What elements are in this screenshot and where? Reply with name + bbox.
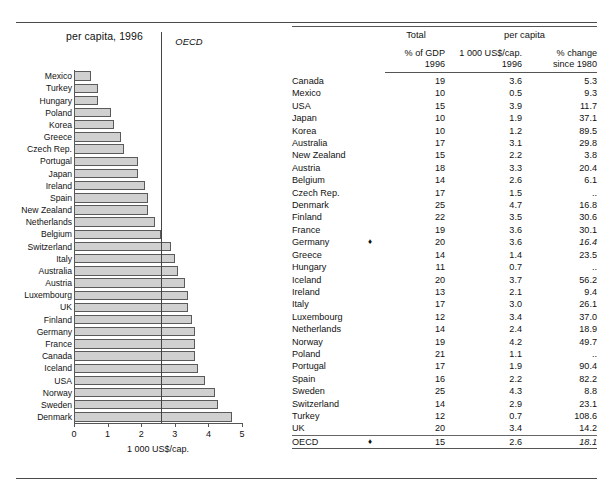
cell-gdp-percent: 12 bbox=[385, 311, 445, 323]
cell-percent-change: 16.8 bbox=[528, 199, 597, 211]
x-axis-tick-label: 3 bbox=[165, 429, 185, 439]
chart-category-label: Portugal bbox=[40, 155, 72, 167]
table-row[interactable]: Turkey120.7108.6 bbox=[292, 410, 597, 422]
table-row[interactable]: Greece141.423.5 bbox=[292, 249, 597, 261]
chart-category-label: Sweden bbox=[41, 399, 72, 411]
table-row[interactable]: France193.630.1 bbox=[292, 224, 597, 236]
table-row[interactable]: Mexico100.59.3 bbox=[292, 87, 597, 99]
chart-category-label: Canada bbox=[42, 350, 72, 362]
table-row[interactable]: Japan101.937.1 bbox=[292, 112, 597, 124]
chart-plot-area: MexicoTurkeyHungaryPolandKoreaGreeceCzec… bbox=[16, 70, 284, 448]
cell-country: Mexico bbox=[292, 87, 321, 99]
table-row[interactable]: Denmark254.716.8 bbox=[292, 199, 597, 211]
chart-bar bbox=[74, 266, 178, 275]
table-row[interactable]: Belgium142.66.1 bbox=[292, 174, 597, 186]
table-row[interactable]: Norway194.249.7 bbox=[292, 336, 597, 348]
table-row[interactable]: USA153.911.7 bbox=[292, 100, 597, 112]
table-row[interactable]: Austria183.320.4 bbox=[292, 162, 597, 174]
table-row[interactable]: Spain162.282.2 bbox=[292, 373, 597, 385]
table-row[interactable]: Netherlands142.418.9 bbox=[292, 323, 597, 335]
table-row[interactable]: Korea101.289.5 bbox=[292, 125, 597, 137]
cell-percent-change: 11.7 bbox=[528, 100, 597, 112]
chart-category-label: Ireland bbox=[46, 180, 72, 192]
cell-usd-per-capita: 1.1 bbox=[450, 348, 522, 360]
diamond-icon: ♦ bbox=[364, 436, 376, 448]
cell-gdp-percent: 10 bbox=[385, 125, 445, 137]
table-row[interactable]: Finland223.530.6 bbox=[292, 211, 597, 223]
cell-country: Iceland bbox=[292, 274, 321, 286]
chart-bar bbox=[74, 144, 124, 153]
table-row[interactable]: OECD♦152.618.1 bbox=[292, 436, 597, 448]
cell-gdp-percent: 14 bbox=[385, 323, 445, 335]
chart-category-label: Mexico bbox=[45, 70, 72, 82]
cell-country: Ireland bbox=[292, 286, 320, 298]
cell-gdp-percent: 10 bbox=[385, 87, 445, 99]
chart-bar bbox=[74, 205, 148, 214]
table-row[interactable]: Ireland132.19.4 bbox=[292, 286, 597, 298]
chart-category-label: Iceland bbox=[44, 362, 72, 374]
x-axis-caption: 1 000 US$/cap. bbox=[74, 444, 242, 454]
table-row[interactable]: Switzerland142.923.1 bbox=[292, 398, 597, 410]
table-row[interactable]: Australia173.129.8 bbox=[292, 137, 597, 149]
table-row[interactable]: Canada193.65.3 bbox=[292, 75, 597, 87]
chart-bar bbox=[74, 291, 188, 300]
table-row[interactable]: UK203.414.2 bbox=[292, 422, 597, 434]
table-row[interactable]: Italy173.026.1 bbox=[292, 298, 597, 310]
cell-usd-per-capita: 2.6 bbox=[450, 174, 522, 186]
chart-category-label: Luxembourg bbox=[24, 289, 72, 301]
cell-gdp-percent: 25 bbox=[385, 199, 445, 211]
chart-axes: 012345OECD bbox=[74, 70, 279, 436]
cell-percent-change: 37.1 bbox=[528, 112, 597, 124]
cell-country: Portugal bbox=[292, 360, 326, 372]
cell-country: Austria bbox=[292, 162, 320, 174]
cell-country: Japan bbox=[292, 112, 317, 124]
oecd-reference-line bbox=[161, 32, 162, 423]
cell-percent-change: 20.4 bbox=[528, 162, 597, 174]
table-row[interactable]: Germany♦203.616.4 bbox=[292, 236, 597, 248]
cell-country: Switzerland bbox=[292, 398, 339, 410]
cell-usd-per-capita: 1.9 bbox=[450, 360, 522, 372]
column-header-usd: 1 000 US$/cap. 1996 bbox=[450, 48, 522, 69]
cell-usd-per-capita: 0.5 bbox=[450, 87, 522, 99]
cell-country: Canada bbox=[292, 75, 324, 87]
cell-percent-change: 30.6 bbox=[528, 211, 597, 223]
chart-bar bbox=[74, 254, 175, 263]
table-row[interactable]: Luxembourg123.437.0 bbox=[292, 311, 597, 323]
table-row[interactable]: Hungary110.7.. bbox=[292, 261, 597, 273]
cell-usd-per-capita: 3.4 bbox=[450, 311, 522, 323]
cell-country: Belgium bbox=[292, 174, 325, 186]
table-row[interactable]: Sweden254.38.8 bbox=[292, 385, 597, 397]
table-row[interactable]: New Zealand152.23.8 bbox=[292, 149, 597, 161]
x-axis-tick bbox=[208, 423, 209, 427]
chart-category-label: Czech Rep. bbox=[27, 143, 72, 155]
cell-percent-change: 23.1 bbox=[528, 398, 597, 410]
table-row[interactable]: Poland211.1.. bbox=[292, 348, 597, 360]
chart-bar bbox=[74, 193, 148, 202]
cell-country: Spain bbox=[292, 373, 315, 385]
cell-percent-change: .. bbox=[528, 348, 597, 360]
cell-percent-change: 9.4 bbox=[528, 286, 597, 298]
column-header-change: % change since 1980 bbox=[528, 48, 597, 69]
cell-country: Italy bbox=[292, 298, 309, 310]
chart-bar bbox=[74, 84, 98, 93]
diamond-icon: ♦ bbox=[364, 236, 376, 248]
cell-percent-change: 37.0 bbox=[528, 311, 597, 323]
bar-chart-panel: per capita, 1996 MexicoTurkeyHungaryPola… bbox=[16, 26, 284, 474]
cell-percent-change: 49.7 bbox=[528, 336, 597, 348]
chart-bar bbox=[74, 71, 91, 80]
chart-category-label: Japan bbox=[49, 168, 72, 180]
cell-country: Hungary bbox=[292, 261, 326, 273]
table-row[interactable]: Iceland203.756.2 bbox=[292, 274, 597, 286]
cell-gdp-percent: 15 bbox=[385, 436, 445, 448]
table-row[interactable]: Czech Rep.171.5.. bbox=[292, 187, 597, 199]
cell-country: France bbox=[292, 224, 320, 236]
cell-gdp-percent: 16 bbox=[385, 373, 445, 385]
table-row[interactable]: Portugal171.990.4 bbox=[292, 360, 597, 372]
column-header-gdp-line2: 1996 bbox=[385, 59, 445, 70]
column-header-gdp-line1: % of GDP bbox=[385, 48, 445, 59]
x-axis-tick bbox=[141, 423, 142, 427]
chart-bar bbox=[74, 181, 145, 190]
group-header-per-capita: per capita bbox=[452, 30, 597, 40]
cell-country: Denmark bbox=[292, 199, 329, 211]
cell-gdp-percent: 17 bbox=[385, 298, 445, 310]
